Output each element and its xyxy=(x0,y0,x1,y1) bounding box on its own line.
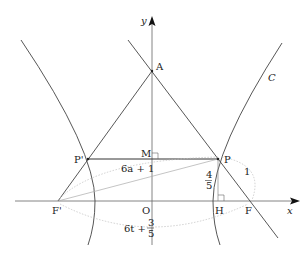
hyperbola-diagram: y x O C A P P' M F F' H 1 6a + 1 4 5 6t … xyxy=(0,0,307,260)
fraction-PH-num: 4 xyxy=(206,169,212,180)
label-M: M xyxy=(141,148,151,159)
point-Pprime xyxy=(87,158,90,161)
fraction-PH: 4 5 xyxy=(205,169,212,191)
fraction-FprimeF-num: 3 xyxy=(148,217,154,228)
label-FprimeP: 6a + 1 xyxy=(121,163,154,174)
label-Fprime: F' xyxy=(52,205,62,216)
y-axis-label: y xyxy=(140,15,147,26)
origin-label: O xyxy=(142,205,150,216)
fraction-PH-den: 5 xyxy=(206,180,212,191)
label-FprimeF-main: 6t + xyxy=(124,223,146,234)
label-H: H xyxy=(215,205,224,216)
label-Pprime: P' xyxy=(74,154,83,165)
x-axis xyxy=(15,198,300,205)
label-A: A xyxy=(155,61,164,72)
label-F: F xyxy=(245,205,252,216)
right-angle-H xyxy=(218,195,224,201)
x-axis-label: x xyxy=(287,205,293,216)
line-AFprime xyxy=(58,71,152,201)
point-P xyxy=(217,158,220,161)
label-FprimeF: 6t + 3 5 xyxy=(124,217,154,239)
label-PF-length: 1 xyxy=(244,166,250,177)
curve-label: C xyxy=(268,72,276,83)
line-AF xyxy=(128,40,278,238)
fraction-FprimeF-den: 5 xyxy=(148,228,154,239)
point-A xyxy=(151,70,153,72)
right-angle-M xyxy=(152,153,158,159)
label-P: P xyxy=(224,154,231,165)
